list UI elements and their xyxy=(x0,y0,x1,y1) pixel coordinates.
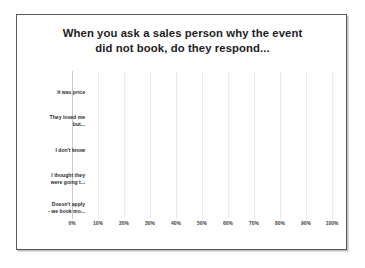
title-line-2: did not book, do they respond... xyxy=(27,41,338,56)
gridline-90% xyxy=(306,71,307,219)
x-tick-0%: 0% xyxy=(68,221,75,226)
category-label-line: They loved me xyxy=(23,114,85,121)
category-label-line: but... xyxy=(23,121,85,128)
x-tick-90%: 90% xyxy=(301,221,311,226)
x-axis: 0%10%20%30%40%50%60%70%80%90%100% xyxy=(72,221,332,235)
x-tick-100%: 100% xyxy=(326,221,339,226)
bar-row[interactable] xyxy=(72,79,249,105)
page-title: When you ask a sales person why the even… xyxy=(27,26,338,55)
gridline-100% xyxy=(332,71,333,219)
category-label-3: I don't know xyxy=(23,147,85,154)
x-tick-20%: 20% xyxy=(119,221,129,226)
category-label-1: It was price xyxy=(23,89,85,96)
category-label-4: I thought theywere going t... xyxy=(23,172,85,185)
category-label-line: Doesn't apply xyxy=(23,201,85,208)
title-line-1: When you ask a sales person why the even… xyxy=(27,26,338,41)
gridline-80% xyxy=(280,71,281,219)
x-tick-40%: 40% xyxy=(171,221,181,226)
category-label-2: They loved mebut... xyxy=(23,114,85,127)
slide-frame: When you ask a sales person why the even… xyxy=(16,14,347,250)
x-tick-30%: 30% xyxy=(145,221,155,226)
category-label-line: were going t... xyxy=(23,179,85,186)
category-label-line: I thought they xyxy=(23,172,85,179)
category-label-line: I don't know xyxy=(23,147,85,154)
x-tick-80%: 80% xyxy=(275,221,285,226)
x-tick-60%: 60% xyxy=(223,221,233,226)
x-tick-10%: 10% xyxy=(93,221,103,226)
category-label-line: It was price xyxy=(23,89,85,96)
x-tick-50%: 50% xyxy=(197,221,207,226)
x-tick-70%: 70% xyxy=(249,221,259,226)
category-label-line: - we book mo... xyxy=(23,208,85,215)
category-label-5: Doesn't apply- we book mo... xyxy=(23,201,85,214)
gridline-70% xyxy=(254,71,255,219)
bar-chart: It was priceThey loved mebut...I don't k… xyxy=(17,71,348,249)
